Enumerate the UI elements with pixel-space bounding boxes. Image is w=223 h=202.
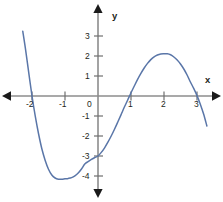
x-tick-label-1: 1 bbox=[128, 99, 133, 109]
graph-figure: y x -2 -1 1 2 3 0 3 2 1 -1 -2 -3 -4 bbox=[0, 0, 223, 202]
y-tick-label-1: 1 bbox=[85, 71, 90, 81]
x-tick-label-neg2: -2 bbox=[26, 99, 33, 109]
y-axis-label: y bbox=[112, 10, 117, 21]
origin-label: 0 bbox=[87, 99, 92, 109]
x-tick-label-3: 3 bbox=[194, 99, 199, 109]
y-tick-label-neg1: -1 bbox=[82, 111, 89, 121]
y-tick-label-2: 2 bbox=[85, 51, 90, 61]
x-axis-left-arrow-icon bbox=[2, 91, 11, 101]
cubic-curve bbox=[23, 31, 207, 179]
y-tick-label-neg4: -4 bbox=[82, 171, 89, 181]
y-tick-label-neg2: -2 bbox=[82, 131, 89, 141]
x-axis-right-arrow-icon bbox=[212, 91, 221, 101]
plot-area bbox=[0, 0, 223, 202]
x-tick-label-neg1: -1 bbox=[59, 99, 66, 109]
y-axis-down-arrow-icon bbox=[93, 189, 102, 198]
x-tick-label-2: 2 bbox=[161, 99, 166, 109]
y-tick-label-neg3: -3 bbox=[82, 151, 89, 161]
y-tick-label-3: 3 bbox=[85, 31, 90, 41]
y-axis-up-arrow-icon bbox=[93, 4, 102, 13]
x-axis-label: x bbox=[205, 74, 210, 85]
